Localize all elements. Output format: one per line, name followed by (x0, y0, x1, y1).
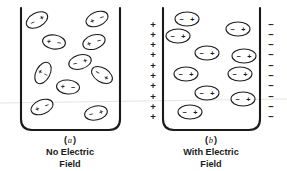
dipole-ellipse (84, 8, 111, 30)
dipole-ellipse (83, 104, 108, 122)
dipole-positive-sign: − (71, 83, 76, 92)
dipole-a-5: +− (31, 60, 54, 87)
figure-canvas: −++−+−+−−++−−++−+−−+ ++++++++++−−−−−−−−−… (0, 0, 287, 171)
panel-a: −++−+−+−−++−−++−+−−+ (21, 8, 120, 130)
dipole-ellipse (29, 96, 56, 118)
dipole-a-7: +− (56, 79, 80, 95)
dipole-positive-sign: + (241, 25, 245, 34)
dipole-positive-sign: + (193, 108, 197, 117)
dipole-positive-sign: + (210, 89, 214, 98)
dipole-b-8: −+ (231, 92, 255, 106)
dipole-b-6: −+ (228, 67, 252, 81)
caption-line1-a: No Electric (46, 147, 94, 157)
dipole-positive-sign: + (189, 70, 193, 79)
caption-line2-b: Field (200, 159, 221, 169)
dipole-negative-sign: − (236, 52, 240, 61)
dipole-positive-sign: + (246, 95, 250, 104)
dipole-a-3: +− (81, 32, 107, 52)
dipole-ellipse (24, 8, 51, 31)
panel-b: ++++++++++−−−−−−−−−−−+−+−+−+−+−+−+−+−+−+ (150, 8, 274, 130)
dipole-a-8: +− (29, 96, 56, 118)
dipole-a-1: +− (84, 8, 111, 30)
dipole-b-7: −+ (195, 86, 219, 100)
dipole-b-0: −+ (175, 12, 199, 26)
dipole-b-9: −+ (178, 105, 202, 119)
dipole-positive-sign: + (190, 15, 194, 24)
dipole-a-9: −+ (83, 104, 108, 122)
dipole-negative-sign: − (199, 49, 203, 58)
dipole-b-3: −+ (195, 46, 219, 60)
dipole-b-2: −+ (166, 29, 190, 43)
dipole-positive-sign: + (243, 70, 247, 79)
dipole-b-5: −+ (174, 67, 198, 81)
caption-line1-b: With Electric (183, 147, 239, 157)
panel-label-paren-close-b: ) (214, 135, 217, 145)
dipole-positive-sign: + (210, 49, 214, 58)
plate-negative-charge: − (268, 111, 274, 122)
dipole-b-4: −+ (232, 49, 256, 63)
dipole-negative-sign: − (232, 70, 236, 79)
dipole-negative-sign: − (182, 108, 186, 117)
dipole-a-0: −+ (24, 8, 51, 31)
dipole-ellipse (81, 32, 107, 52)
dipole-ellipse (31, 60, 54, 87)
dipole-negative-sign: − (199, 89, 203, 98)
dipole-ellipse (56, 79, 80, 95)
dipole-negative-sign: − (235, 95, 239, 104)
dielectric-polarization-figure: −++−+−+−−++−−++−+−−+ ++++++++++−−−−−−−−−… (0, 0, 287, 171)
dipole-negative-sign: − (230, 25, 234, 34)
dipole-positive-sign: + (181, 32, 185, 41)
dipole-a-6: −+ (89, 63, 116, 87)
dipole-a-2: +− (42, 33, 67, 50)
dipole-negative-sign: − (179, 15, 183, 24)
dipole-negative-sign: + (60, 82, 65, 91)
dipole-a-4: −+ (67, 52, 93, 72)
panel-label-letter-a: a (68, 135, 72, 145)
caption-layer: (a)No ElectricField(b)With ElectricField (46, 135, 239, 169)
caption-line2-a: Field (59, 159, 80, 169)
dipole-b-1: −+ (226, 22, 250, 36)
dipole-ellipse (89, 63, 116, 87)
dipole-negative-sign: − (178, 70, 182, 79)
dipole-negative-sign: − (170, 32, 174, 41)
dipole-positive-sign: + (247, 52, 251, 61)
dipole-ellipse (42, 33, 67, 50)
panel-label-paren-close-a: ) (73, 135, 76, 145)
dipole-ellipse (67, 52, 93, 72)
plate-positive-charge: + (150, 111, 156, 122)
